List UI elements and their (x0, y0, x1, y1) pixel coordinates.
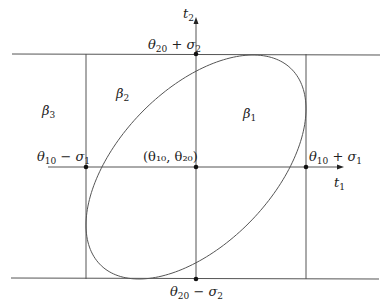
t2-arrowhead-icon (194, 17, 199, 24)
t2-axis-label: t2 (183, 7, 194, 23)
region-beta-3: β3 (42, 104, 55, 120)
marker-dot (304, 165, 309, 170)
left-bound-label: θ10 − σ1 (37, 150, 90, 166)
lower-bound-label: θ20 − σ2 (170, 285, 223, 301)
t1-axis-label: t1 (334, 176, 345, 192)
marker-dot (194, 277, 199, 282)
center-label: (θ₁₀, θ₂₀) (143, 150, 198, 163)
right-bound-label: θ10 + σ1 (309, 150, 362, 166)
region-beta-1: β1 (243, 107, 256, 123)
diagram-canvas: t2 t1 θ20 + σ2 θ20 − σ2 θ10 − σ1 θ10 + σ… (0, 0, 389, 306)
upper-bound-label: θ20 + σ2 (148, 38, 201, 54)
marker-dot (194, 165, 199, 170)
region-beta-2: β2 (116, 87, 129, 103)
